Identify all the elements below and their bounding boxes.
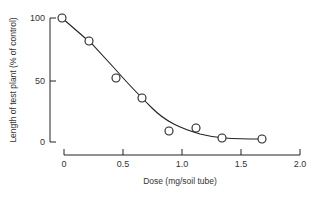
x-axis-title: Dose (mg/soil tube) xyxy=(143,176,217,186)
y-axis-title: Length of test plant (% of control) xyxy=(8,17,18,142)
data-point xyxy=(165,127,173,135)
data-points xyxy=(58,14,266,143)
data-point xyxy=(138,94,146,102)
x-tick-label: 2.0 xyxy=(294,159,307,169)
chart: 100 50 0 Length of test plant (% of cont… xyxy=(0,0,320,197)
fitted-curve xyxy=(62,18,262,139)
x-tick-label: 0 xyxy=(61,159,66,169)
x-tick-label: 1.0 xyxy=(176,159,189,169)
y-tick-label: 100 xyxy=(30,13,45,23)
data-point xyxy=(58,14,66,22)
data-point xyxy=(85,37,93,45)
data-point xyxy=(112,74,120,82)
x-tick-label: 1.5 xyxy=(235,159,248,169)
y-tick-label: 0 xyxy=(40,137,45,147)
data-point xyxy=(192,124,200,132)
data-point xyxy=(218,134,226,142)
x-tick-label: 0.5 xyxy=(117,159,130,169)
y-tick-label: 50 xyxy=(35,76,45,86)
data-point xyxy=(258,135,266,143)
